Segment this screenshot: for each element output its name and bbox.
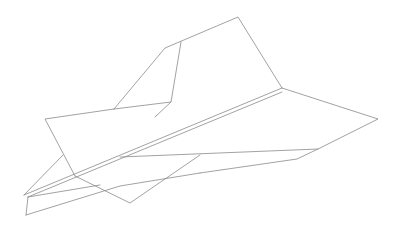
fuselage-inner-crease	[28, 92, 282, 197]
right-wing-lower-edge	[200, 149, 318, 173]
rear-fin-outline	[114, 17, 282, 109]
drawing-canvas	[0, 0, 402, 230]
paper-airplane-drawing	[0, 0, 402, 230]
tail-bottom-edge	[26, 173, 200, 215]
left-wing-strut-line	[24, 155, 63, 195]
fin-lower-edge-line	[155, 102, 171, 117]
fin-inner-fold-line	[114, 42, 181, 109]
right-wing-outline	[120, 88, 378, 157]
fuselage-tail-edge	[26, 197, 28, 215]
left-wing-lower-edge	[75, 155, 200, 203]
